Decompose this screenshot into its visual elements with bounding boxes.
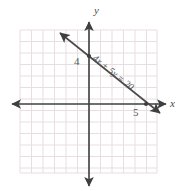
coordinate-plane-svg bbox=[0, 0, 182, 191]
y-intercept-dot bbox=[87, 54, 91, 58]
y-intercept-label: 4 bbox=[74, 56, 80, 67]
x-intercept-label: 5 bbox=[133, 107, 139, 118]
x-axis-label: x bbox=[170, 98, 175, 109]
y-axis-label: y bbox=[94, 5, 99, 16]
x-intercept-dot bbox=[144, 102, 148, 106]
graph-figure: x y 4 5 4x + 5y = 20 bbox=[0, 0, 182, 191]
